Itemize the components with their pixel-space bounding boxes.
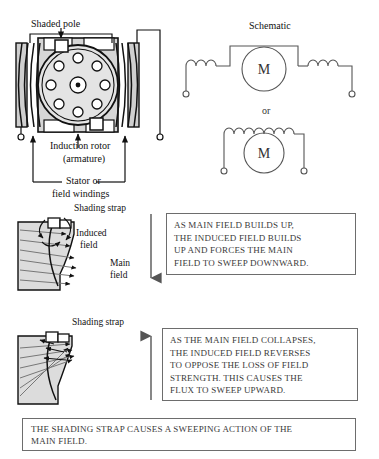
callout-collapse-line-2: THE INDUCED FIELD REVERSES (170, 347, 350, 360)
summary-box: THE SHADING STRAP CAUSES A SWEEPING ACTI… (22, 418, 356, 451)
pole-collapse-svg (8, 326, 158, 411)
figure-root: Shaded pole Induction rotor (armature) S… (0, 0, 379, 459)
shading-strap-label-collapse: Shading strap (72, 317, 124, 327)
main-field-label-line1: Main (110, 258, 130, 268)
schematic-svg: M M (180, 36, 379, 186)
callout-build-line-2: THE INDUCED FIELD BUILDS (174, 232, 348, 245)
callout-collapse-line-5: FLUX TO SWEEP UPWARD. (170, 384, 350, 397)
callout-build-line-3: UP AND FORCES THE MAIN (174, 244, 348, 257)
or-label: or (262, 105, 270, 116)
pole-piece-collapse-diagram (8, 326, 158, 411)
callout-collapse-line-1: AS THE MAIN FIELD COLLAPSES, (170, 334, 350, 347)
schematic-diagram: M M (180, 36, 379, 186)
main-field-label-line2: field (110, 270, 127, 280)
stator-label-line1: Stator or (66, 175, 101, 186)
induction-rotor-label-line2: (armature) (63, 153, 105, 164)
induced-field-label-line2: field (80, 240, 97, 250)
callout-build-line-1: AS MAIN FIELD BUILDS UP, (174, 219, 348, 232)
summary-line-2: MAIN FIELD. (31, 435, 347, 447)
shaded-pole-label: Shaded pole (31, 18, 80, 29)
callout-box-build: AS MAIN FIELD BUILDS UP, THE INDUCED FIE… (166, 213, 356, 275)
stator-label-line2: field windings (52, 188, 110, 199)
callout-collapse-line-4: STRENGTH. THIS CAUSES THE (170, 372, 350, 385)
motor-cross-section-svg (0, 10, 180, 195)
induced-field-label-line1: Induced (76, 228, 107, 238)
schematic-title: Schematic (249, 20, 291, 31)
callout-build-line-4: FIELD TO SWEEP DOWNWARD. (174, 257, 348, 270)
sweep-up-arrow (142, 330, 160, 402)
shading-strap-label-build: Shading strap (74, 203, 126, 213)
pole-piece-build-diagram (8, 212, 158, 297)
pole-build-svg (8, 212, 158, 297)
callout-collapse-line-3: TO OPPOSE THE LOSS OF FIELD (170, 359, 350, 372)
summary-line-1: THE SHADING STRAP CAUSES A SWEEPING ACTI… (31, 423, 347, 435)
motor-cross-section (0, 10, 180, 195)
motor-symbol-bottom: M (258, 146, 271, 161)
callout-box-collapse: AS THE MAIN FIELD COLLAPSES, THE INDUCED… (162, 328, 358, 401)
motor-symbol-top: M (258, 62, 271, 77)
induction-rotor-label-line1: Induction rotor (50, 140, 110, 151)
sweep-down-arrow (142, 212, 160, 290)
